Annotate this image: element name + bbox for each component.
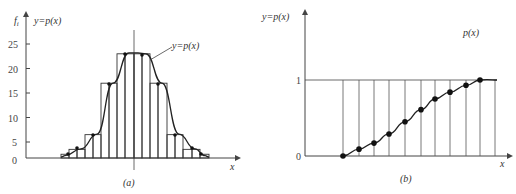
data-point <box>173 133 177 137</box>
panel-caption-b: (b) <box>400 173 412 185</box>
y-tick: 20 <box>8 64 18 75</box>
bar <box>158 83 167 158</box>
bar <box>77 149 85 158</box>
data-point <box>463 83 469 89</box>
data-point <box>447 89 453 95</box>
curve-label-top: y=p(x) <box>33 15 62 27</box>
y-tick: 5 <box>12 137 17 148</box>
data-point <box>432 96 438 102</box>
panel-caption-a: (a) <box>123 177 135 189</box>
data-point <box>402 119 408 125</box>
histogram-panel-a: 0510152025 fi y=p(x) y=p(x) x (a) <box>8 14 238 189</box>
bar <box>109 83 117 158</box>
cdf-curve <box>343 80 497 156</box>
bar <box>93 135 101 158</box>
data-point <box>386 131 392 137</box>
bar <box>142 54 150 158</box>
data-point <box>340 153 346 159</box>
data-point <box>91 133 95 137</box>
bar <box>175 135 183 158</box>
data-point <box>107 82 111 86</box>
y-tick: 10 <box>8 113 18 124</box>
bar <box>134 54 142 158</box>
data-point <box>75 146 79 150</box>
bar <box>183 149 192 158</box>
data-point <box>123 52 127 56</box>
y-axis-label-b: y=p(x) <box>261 11 290 23</box>
data-point <box>371 140 377 146</box>
y-tick: 15 <box>8 88 18 99</box>
x-axis-label-b: x <box>499 158 505 169</box>
y-tick-0: 0 <box>296 151 301 162</box>
y-axis-label: fi <box>14 15 19 28</box>
data-point <box>156 82 160 86</box>
figure: 0510152025 fi y=p(x) y=p(x) x (a) 1 0 y=… <box>0 0 516 194</box>
y-tick: 0 <box>12 155 17 166</box>
data-point <box>477 77 483 83</box>
curve-label-callout: y=p(x) <box>171 40 200 52</box>
data-point <box>199 152 203 156</box>
x-axis-label: x <box>229 161 235 172</box>
bar <box>125 54 134 158</box>
curve-label-b: p(x) <box>462 27 480 39</box>
callout-line <box>150 47 172 60</box>
data-point <box>418 107 424 113</box>
y-tick-1: 1 <box>296 75 301 86</box>
density-curve <box>61 53 209 157</box>
bar <box>167 135 175 158</box>
data-point <box>66 152 70 156</box>
y-tick: 25 <box>8 39 18 50</box>
data-point <box>190 146 194 150</box>
bar <box>150 83 158 158</box>
cdf-panel-b: 1 0 y=p(x) p(x) x (b) <box>261 11 510 185</box>
data-point <box>356 146 362 152</box>
data-point <box>140 53 144 57</box>
